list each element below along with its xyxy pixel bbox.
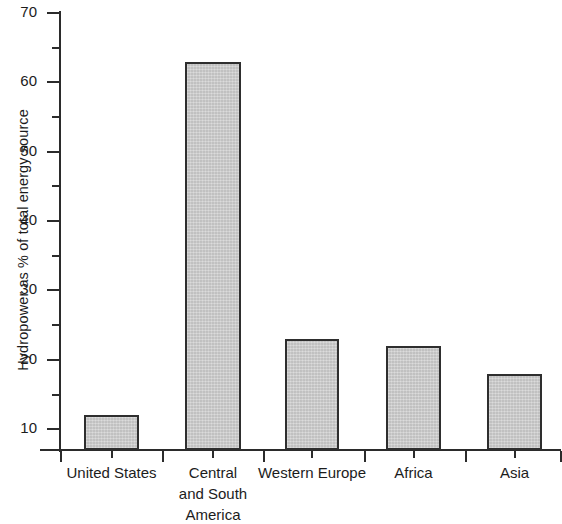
x-axis-tick-major: [560, 451, 562, 462]
x-axis-tick-minor: [413, 451, 415, 458]
x-axis-tick-major: [60, 451, 62, 462]
x-axis-tick-minor: [514, 451, 516, 458]
x-axis-category-label-line: Asia: [445, 462, 562, 483]
x-axis-tick-major: [465, 451, 467, 462]
bar-africa: [386, 346, 441, 450]
bar-central-and-south-america: [185, 62, 241, 450]
x-axis-category-label-line: and South: [143, 483, 283, 504]
x-axis-tick-minor: [111, 451, 113, 458]
x-axis-category-label-line: America: [143, 504, 283, 524]
x-axis-category-label: Asia: [445, 462, 562, 483]
x-axis-tick-major: [364, 451, 366, 462]
x-axis-tick-minor: [311, 451, 313, 458]
bar-western-europe: [285, 339, 339, 450]
bars-layer: [0, 0, 562, 450]
x-axis-tick-major: [162, 451, 164, 462]
bar-asia: [487, 374, 542, 450]
x-axis-tick-minor: [212, 451, 214, 458]
bar-united-states: [84, 415, 139, 450]
x-axis-tick-major: [263, 451, 265, 462]
